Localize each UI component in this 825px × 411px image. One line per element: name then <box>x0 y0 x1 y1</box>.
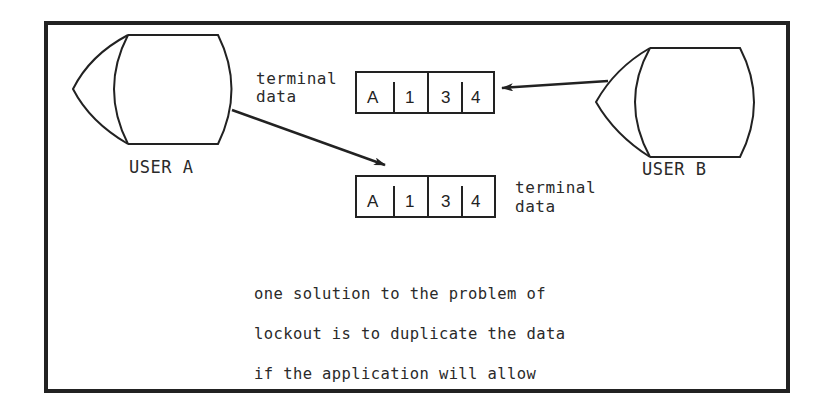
record-top-label-line1: terminal <box>256 70 337 88</box>
arrow-user-b-to-record <box>502 81 608 88</box>
record-divider <box>427 73 429 112</box>
record-divider <box>393 82 395 112</box>
record-bottom-label-line1: terminal <box>515 179 596 197</box>
user-b-label: USER B <box>642 160 706 178</box>
user-b-terminal-icon <box>596 48 754 157</box>
record-divider <box>461 82 463 112</box>
record-cell: 3 <box>441 88 450 108</box>
record-divider <box>461 186 463 216</box>
record-top: A 1 3 4 <box>355 71 495 114</box>
record-cell: A <box>367 88 378 108</box>
record-cell: 1 <box>405 88 414 108</box>
caption-line-3: if the application will allow <box>254 364 565 384</box>
record-cell: A <box>367 192 378 212</box>
caption-line-2: lockout is to duplicate the data <box>254 324 565 344</box>
record-cell: 3 <box>441 192 450 212</box>
record-bottom: A 1 3 4 <box>355 175 496 218</box>
caption: one solution to the problem of lockout i… <box>254 264 565 404</box>
arrow-user-a-to-record <box>232 110 385 165</box>
caption-line-1: one solution to the problem of <box>254 284 565 304</box>
user-a-terminal-icon <box>73 35 232 144</box>
record-bottom-label-line2: data <box>515 198 556 216</box>
record-cell: 4 <box>471 88 480 108</box>
record-top-label-line2: data <box>256 88 297 106</box>
record-cell: 1 <box>405 192 414 212</box>
user-a-label: USER A <box>129 158 193 176</box>
record-divider <box>427 177 429 216</box>
record-divider <box>393 186 395 216</box>
record-cell: 4 <box>471 192 480 212</box>
